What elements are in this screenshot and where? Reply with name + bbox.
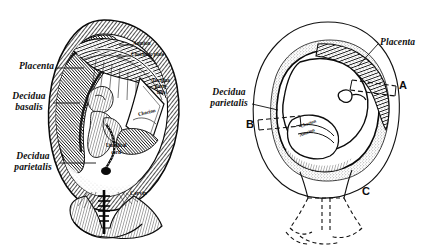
label-left-chorionic-plate: Chorionic plate [131, 52, 164, 58]
label-left-amnion: Amnion [133, 41, 150, 47]
label-left-placenta: Placenta [6, 62, 54, 72]
label-left-decidua-parietalis-line2: parietalis [6, 163, 60, 173]
marker-a: A [399, 80, 407, 92]
right-figure [252, 22, 399, 244]
illustration-canvas [0, 0, 436, 247]
label-right-decidua-parietalis-line1: Decidua [204, 88, 254, 98]
label-right-decidua-parietalis-line2: parietalis [202, 99, 256, 109]
label-left-decidua-parietalis-line1: Decidua [6, 152, 60, 162]
marker-c: C [362, 186, 370, 198]
label-right-placenta: Placenta [380, 38, 415, 48]
label-left-decidua-parietalis-inset-line3: talis [148, 90, 174, 96]
label-left-umbilical-cord-line1: Umbilical [98, 143, 134, 149]
label-left-umbilical-cord-line2: cord [98, 150, 134, 156]
label-left-decidua-basalis-line2: basalis [4, 103, 54, 113]
right-cervix-dashed [286, 198, 362, 244]
label-left-decidua-basalis-line1: Decidua [4, 92, 54, 102]
anatomy-plate: Placenta Decidua basalis Decidua parieta… [0, 0, 436, 247]
marker-b: B [246, 119, 254, 131]
label-left-cervix: Cervix [130, 190, 147, 197]
